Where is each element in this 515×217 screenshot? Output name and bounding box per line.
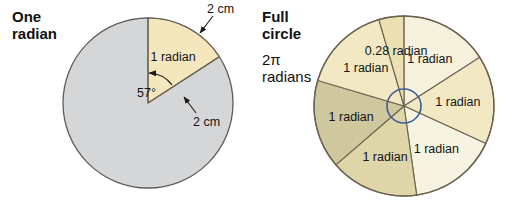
left-circle-diagram: 1 radian 57° 2 cm 2 cm — [63, 2, 234, 188]
sector-label: 1 radian — [362, 150, 407, 164]
right-circle-diagram: 1 radian1 radian1 radian1 radian1 radian… — [314, 16, 494, 196]
sector-label: 0.28 radian — [365, 44, 428, 58]
sector-label: 1 radian — [414, 142, 459, 156]
left-sector-label: 1 radian — [151, 50, 196, 64]
sector-label: 1 radian — [343, 61, 388, 75]
sector-label: 1 radian — [435, 95, 480, 109]
radius-length-label: 2 cm — [193, 115, 220, 129]
sector-label: 1 radian — [329, 110, 374, 124]
radian-figure: 1 radian 57° 2 cm 2 cm 1 radian1 radian1… — [0, 0, 515, 217]
angle-value-label: 57° — [137, 86, 156, 100]
arc-length-leader-line — [200, 16, 213, 33]
arc-length-label: 2 cm — [207, 2, 234, 16]
